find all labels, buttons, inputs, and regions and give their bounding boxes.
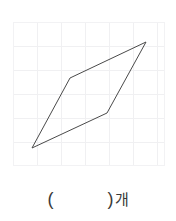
answer-prompt: ( ) 개 xyxy=(0,182,176,214)
worksheet: ( ) 개 xyxy=(0,0,176,221)
unit-label: 개 xyxy=(115,192,129,207)
answer-blank-input[interactable] xyxy=(54,189,108,205)
close-paren: ) xyxy=(108,190,114,208)
graph-paper-grid xyxy=(13,22,165,166)
